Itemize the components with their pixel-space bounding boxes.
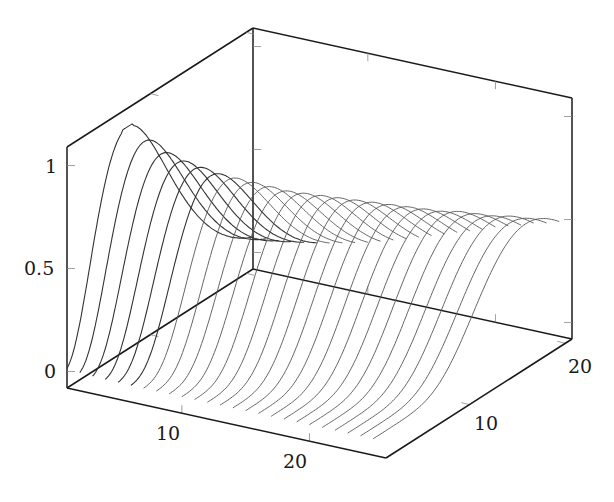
series-curve — [271, 207, 457, 417]
series-curves — [67, 124, 559, 439]
series-curve — [131, 174, 317, 386]
series-curve — [118, 167, 304, 382]
x-tick-label-10: 10 — [156, 424, 180, 443]
z-tick-label-0.5: 0.5 — [24, 259, 54, 278]
y-tick-label-10: 10 — [474, 414, 498, 433]
series-curve — [93, 153, 279, 377]
series-curve — [105, 161, 291, 379]
plot-area — [0, 0, 614, 502]
y-tick-label-20: 20 — [568, 357, 592, 376]
front-box — [67, 339, 572, 458]
z-tick-label-0: 0 — [44, 362, 56, 381]
z-tick-label-1: 1 — [45, 157, 57, 176]
x-tick-label-20: 20 — [283, 452, 307, 471]
series-curve — [246, 202, 432, 411]
series-curve — [309, 211, 495, 424]
series-curve — [67, 124, 253, 369]
series-curve — [233, 200, 419, 408]
series-curve — [195, 193, 381, 399]
